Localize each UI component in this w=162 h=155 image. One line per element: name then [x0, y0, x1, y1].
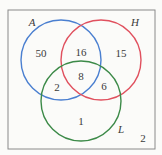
region-count-outside-all: 2: [140, 132, 146, 144]
set-label-h: H: [130, 16, 140, 28]
region-count-A-only: 50: [36, 47, 48, 59]
region-count-L-only: 1: [78, 115, 84, 127]
region-count-A-H-L: 8: [78, 70, 84, 82]
region-count-H-and-L-only: 6: [101, 80, 107, 92]
set-label-l: L: [117, 123, 124, 135]
set-label-a: A: [28, 16, 36, 28]
region-count-H-only: 15: [116, 47, 128, 59]
region-count-A-and-L-only: 2: [54, 81, 60, 93]
venn-diagram: AHL 50161582612: [0, 0, 162, 155]
region-count-A-and-H-only: 16: [76, 46, 88, 58]
